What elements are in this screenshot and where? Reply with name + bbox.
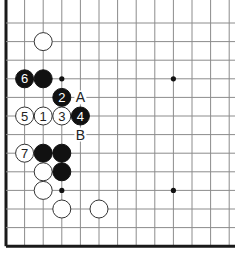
black-stone: [53, 163, 71, 181]
move-number-label: 5: [21, 109, 28, 124]
white-stone: [90, 200, 108, 218]
black-stone: [34, 144, 52, 162]
black-stone-icon: [53, 163, 71, 181]
white-stone-icon: [34, 33, 52, 51]
white-stone: [34, 33, 52, 51]
white-stone-7: 7: [16, 144, 34, 162]
white-stone: [53, 200, 71, 218]
black-stone: [34, 70, 52, 88]
black-stone-icon: [34, 144, 52, 162]
white-stone: [34, 163, 52, 181]
black-stone-icon: [53, 144, 71, 162]
go-board-svg: 6251347 AB: [0, 0, 241, 254]
move-number-label: 6: [21, 71, 28, 86]
star-point-icon: [171, 188, 176, 193]
star-point-icon: [171, 76, 176, 81]
star-point-icon: [59, 76, 64, 81]
white-stone-1: 1: [34, 107, 52, 125]
move-number-label: 7: [21, 146, 28, 161]
white-stone-icon: [53, 200, 71, 218]
white-stone: [34, 181, 52, 199]
move-number-label: 2: [58, 90, 65, 105]
move-number-label: 3: [58, 109, 65, 124]
white-stone-icon: [34, 181, 52, 199]
black-stone: [53, 144, 71, 162]
white-stone-icon: [34, 163, 52, 181]
white-stone-icon: [90, 200, 108, 218]
go-board-diagram: 6251347 AB: [0, 0, 241, 254]
black-stone-2: 2: [53, 88, 71, 106]
white-stone-5: 5: [16, 107, 34, 125]
point-marker-b: B: [76, 127, 85, 143]
move-number-label: 1: [40, 109, 47, 124]
black-stone-icon: [34, 70, 52, 88]
white-stone-3: 3: [53, 107, 71, 125]
black-stone-6: 6: [16, 70, 34, 88]
point-marker-a: A: [76, 89, 86, 105]
move-number-label: 4: [77, 109, 84, 124]
black-stone-4: 4: [71, 107, 89, 125]
star-point-icon: [59, 188, 64, 193]
